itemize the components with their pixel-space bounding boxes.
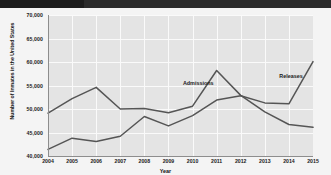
y-axis-title-wrap: Number of Inmates in the United States — [4, 22, 18, 150]
series-line-releases — [48, 62, 313, 150]
y-tick-label: 60,000 — [27, 59, 43, 65]
x-tick-label: 2008 — [139, 158, 151, 164]
series-line-admissions — [48, 70, 313, 127]
x-tick-label: 2011 — [211, 158, 222, 164]
x-tick-label: 2014 — [283, 158, 295, 164]
top-band-segment-title — [22, 0, 84, 8]
x-tick-label: 2013 — [259, 158, 271, 164]
x-tick-label: 2015 — [307, 158, 319, 164]
chart-page: 40,00045,00050,00055,00060,00065,00070,0… — [0, 8, 331, 175]
y-axis-title: Number of Inmates in the United States — [9, 11, 15, 131]
plot-area: AdmissionsReleases — [48, 15, 313, 156]
x-axis-line — [48, 156, 313, 157]
y-tick-label: 50,000 — [27, 106, 43, 112]
top-band-segment-left — [0, 0, 22, 8]
window-top-band — [0, 0, 331, 8]
x-axis-title: Year — [0, 168, 331, 174]
x-tick-label: 2005 — [66, 158, 78, 164]
y-axis-line — [48, 15, 49, 156]
y-tick-label: 45,000 — [27, 130, 43, 136]
series-annotation-releases: Releases — [279, 73, 302, 79]
x-tick-label: 2006 — [90, 158, 102, 164]
y-tick-label: 55,000 — [27, 83, 43, 89]
y-tick-label: 40,000 — [27, 153, 43, 159]
x-tick-label: 2012 — [235, 158, 247, 164]
series-annotation-admissions: Admissions — [183, 80, 214, 86]
y-tick-label: 65,000 — [27, 36, 43, 42]
x-tick-label: 2010 — [187, 158, 199, 164]
chart-screenshot: 40,00045,00050,00055,00060,00065,00070,0… — [0, 0, 331, 175]
x-tick-label: 2007 — [114, 158, 126, 164]
x-tick-label: 2009 — [163, 158, 175, 164]
y-tick-label: 70,000 — [27, 12, 43, 18]
data-lines — [48, 15, 313, 156]
x-tick-label: 2004 — [42, 158, 54, 164]
